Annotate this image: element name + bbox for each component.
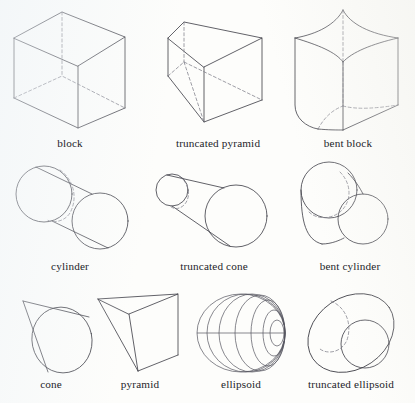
- caption-block: block: [57, 137, 83, 149]
- caption-truncated-ellipsoid: truncated ellipsoid: [308, 378, 394, 390]
- shape-truncated-cone: [156, 174, 267, 247]
- caption-cone: cone: [40, 378, 62, 390]
- caption-bent-block: bent block: [324, 137, 372, 149]
- figure-canvas: block truncated pyramid bent block cylin…: [0, 0, 415, 403]
- caption-truncated-pyramid: truncated pyramid: [176, 137, 260, 149]
- shape-ellipsoid: [197, 294, 285, 372]
- shapes-illustration: [0, 0, 415, 403]
- shape-cylinder: [16, 166, 128, 249]
- caption-bent-cylinder: bent cylinder: [320, 260, 381, 272]
- caption-ellipsoid: ellipsoid: [221, 378, 261, 390]
- shape-cone: [23, 301, 98, 379]
- shape-block: [14, 12, 125, 128]
- shape-bent-block: [295, 10, 398, 130]
- shape-truncated-pyramid: [168, 22, 262, 122]
- shape-pyramid: [98, 294, 178, 371]
- shape-bent-cylinder: [301, 162, 388, 244]
- shape-truncated-ellipsoid: [293, 277, 410, 388]
- caption-pyramid: pyramid: [121, 378, 159, 390]
- caption-cylinder: cylinder: [51, 260, 89, 272]
- caption-truncated-cone: truncated cone: [180, 260, 248, 272]
